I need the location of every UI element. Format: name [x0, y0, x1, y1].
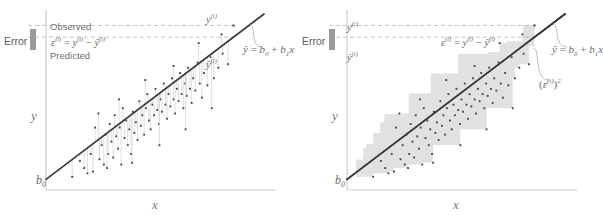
error-label: Error — [4, 36, 27, 47]
y-axis-label-right: y — [332, 109, 338, 122]
line-equation-right: ŷ = b0 + b1x — [552, 44, 603, 58]
squared-error-panel: Error y(i) ŷ(i) ε(i) = y(i) − ŷ(i) ŷ = b… — [301, 0, 602, 221]
predicted-point-label-right: ŷ(i) — [347, 51, 358, 63]
predicted-label: Predicted — [50, 51, 90, 61]
x-axis-label-right: x — [453, 198, 459, 211]
residual-formula-right: ε(i) = y(i) − ŷ(i) — [441, 36, 495, 48]
y-axis-label: y — [31, 109, 37, 122]
intercept-label-right: b0 — [335, 174, 345, 189]
observed-point-label-right: y(i) — [347, 21, 358, 33]
predicted-point-label: ŷ(i) — [206, 58, 217, 70]
residual-formula: ε(i) = y(i) − ŷ(i) — [51, 36, 105, 48]
x-axis-label: x — [152, 198, 158, 211]
line-equation: ŷ = b0 + b1x — [243, 44, 294, 58]
error-bracket-bar-right — [329, 29, 335, 50]
error-bracket-bar — [30, 29, 36, 50]
squared-error-label: (ε(i))2 — [539, 78, 561, 90]
error-panel: Error Observed Predicted ε(i) = y(i) − ŷ… — [0, 0, 301, 221]
squared-error-panel-canvas — [301, 0, 602, 221]
intercept-label: b0 — [36, 174, 46, 189]
observed-label: Observed — [50, 22, 91, 32]
observed-point-label: y(i) — [206, 13, 217, 25]
error-label-right: Error — [302, 36, 325, 47]
